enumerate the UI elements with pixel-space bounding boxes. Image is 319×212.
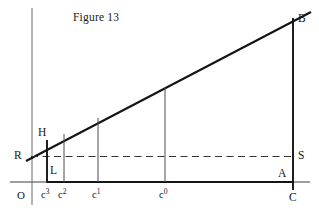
- point-label-c: C: [289, 192, 297, 204]
- tick-label-c3: c3: [41, 190, 49, 201]
- tick-label-c2: c2: [58, 190, 66, 201]
- tick-label-c1: c1: [92, 190, 100, 201]
- figure-title: Figure 13: [73, 12, 119, 24]
- figure-13-diagram: Figure 13 B S A C H L R O c3 c2 c1 c0: [0, 0, 319, 212]
- tick-label-c0: c0: [159, 190, 167, 201]
- tick-exponent-c0: 0: [164, 187, 168, 196]
- point-label-h: H: [38, 127, 46, 139]
- tick-exponent-c3: 3: [46, 187, 50, 196]
- ray-RB: [26, 12, 311, 161]
- point-label-a: A: [278, 168, 286, 180]
- point-label-o: O: [17, 190, 25, 201]
- point-label-r: R: [14, 150, 22, 162]
- tick-exponent-c1: 1: [97, 187, 101, 196]
- point-label-b: B: [298, 13, 306, 25]
- point-label-l: L: [50, 165, 57, 177]
- tick-exponent-c2: 2: [63, 187, 67, 196]
- point-label-s: S: [298, 150, 304, 162]
- diagram-canvas: [0, 0, 319, 212]
